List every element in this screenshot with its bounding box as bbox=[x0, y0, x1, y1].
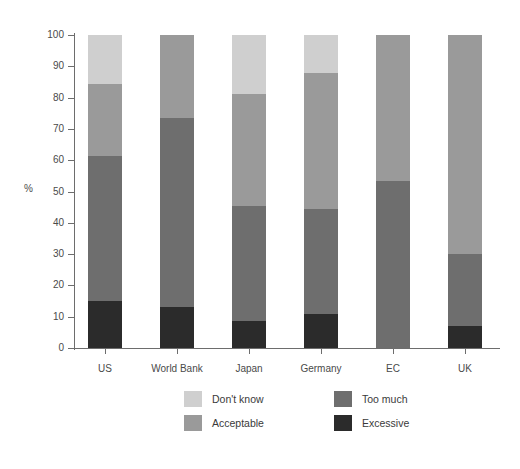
y-tick-label: 20 bbox=[28, 278, 64, 291]
bar-segment bbox=[232, 35, 266, 94]
bar-segment bbox=[448, 35, 482, 254]
x-tick-mark bbox=[321, 348, 322, 354]
x-tick-mark bbox=[465, 348, 466, 354]
bar-group bbox=[376, 35, 410, 348]
legend-label: Excessive bbox=[362, 416, 409, 430]
legend-swatch bbox=[184, 391, 202, 407]
bar-segment bbox=[304, 314, 338, 348]
x-tick-mark bbox=[249, 348, 250, 354]
bar-segment bbox=[232, 206, 266, 322]
y-tick-label: 10 bbox=[28, 310, 64, 323]
bar-group bbox=[88, 35, 122, 348]
x-tick-mark bbox=[177, 348, 178, 354]
bar-segment bbox=[376, 35, 410, 181]
bar-stack bbox=[232, 35, 266, 348]
bar-stack bbox=[304, 35, 338, 348]
y-tick-label: 50 bbox=[28, 185, 64, 198]
bar-segment bbox=[160, 35, 194, 118]
bar-segment bbox=[88, 35, 122, 84]
bar-segment bbox=[376, 181, 410, 348]
bar-group bbox=[304, 35, 338, 348]
bar-stack bbox=[376, 35, 410, 348]
plot-area bbox=[74, 35, 504, 348]
y-tick-mark bbox=[68, 348, 74, 349]
y-tick-label: 60 bbox=[28, 153, 64, 166]
bar-segment bbox=[232, 94, 266, 205]
bar-stack bbox=[160, 35, 194, 348]
legend-swatch bbox=[184, 415, 202, 431]
bar-stack bbox=[88, 35, 122, 348]
bar-segment bbox=[304, 209, 338, 314]
bar-segment bbox=[304, 35, 338, 73]
legend-label: Too much bbox=[362, 392, 408, 406]
y-tick-label: 90 bbox=[28, 59, 64, 72]
bar-segment bbox=[448, 326, 482, 348]
x-tick-mark bbox=[105, 348, 106, 354]
bar-group bbox=[448, 35, 482, 348]
bar-stack bbox=[448, 35, 482, 348]
y-tick-label: 30 bbox=[28, 247, 64, 260]
bar-segment bbox=[160, 118, 194, 307]
bar-segment bbox=[88, 156, 122, 302]
bar-segment bbox=[304, 73, 338, 209]
bar-segment bbox=[88, 84, 122, 156]
bar-segment bbox=[448, 254, 482, 326]
x-axis-line bbox=[74, 348, 500, 349]
bar-group bbox=[232, 35, 266, 348]
x-tick-mark bbox=[393, 348, 394, 354]
bar-segment bbox=[88, 301, 122, 348]
y-tick-label: 40 bbox=[28, 216, 64, 229]
y-tick-label: 0 bbox=[28, 341, 64, 354]
legend-label: Acceptable bbox=[212, 416, 264, 430]
y-tick-label: 70 bbox=[28, 122, 64, 135]
legend-swatch bbox=[334, 415, 352, 431]
legend-label: Don't know bbox=[212, 392, 264, 406]
x-tick-label-uk: UK bbox=[410, 362, 520, 375]
stacked-bar-chart: % 0102030405060708090100 USWorld BankJap… bbox=[0, 0, 520, 469]
bar-segment bbox=[232, 321, 266, 348]
y-tick-label: 100 bbox=[28, 28, 64, 41]
y-tick-label: 80 bbox=[28, 91, 64, 104]
bar-group bbox=[160, 35, 194, 348]
chart-legend: Don't knowToo muchAcceptableExcessive bbox=[184, 391, 474, 439]
legend-swatch bbox=[334, 391, 352, 407]
bar-segment bbox=[160, 307, 194, 348]
